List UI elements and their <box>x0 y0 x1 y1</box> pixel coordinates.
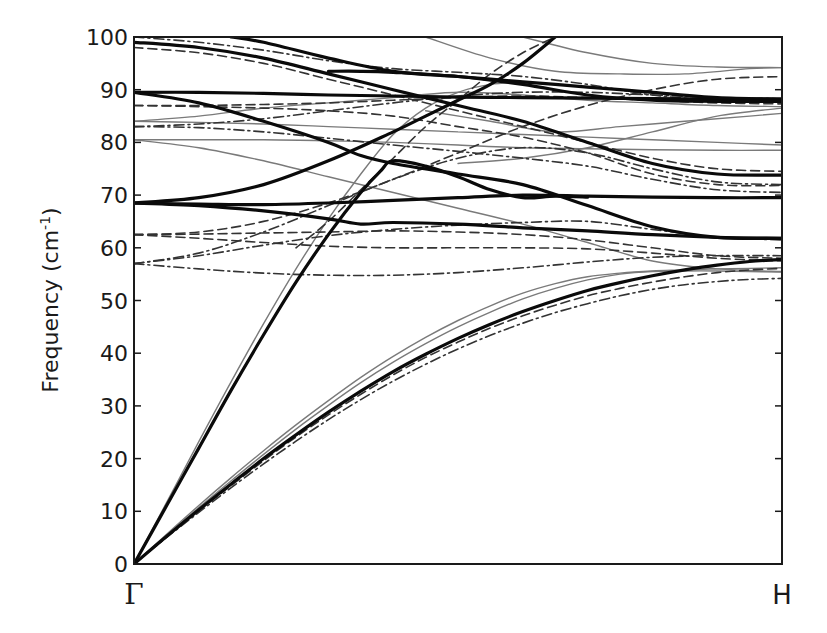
band-optic-99-thick <box>134 42 782 175</box>
phonon-dispersion-chart: 0102030405060708090100 Γ H Frequency (cm… <box>0 0 827 633</box>
y-axis-label: Frequency (cm-1) <box>37 207 63 392</box>
y-tick-label: 10 <box>100 499 128 524</box>
band-acoustic-dashed <box>134 268 782 564</box>
band-acoustic-TA-thin <box>134 268 782 564</box>
band-steep-acoustic-thin <box>134 82 523 564</box>
band-optic-100-thick <box>231 37 782 99</box>
band-optic-thin-top-b <box>523 37 782 68</box>
x-tick-gamma: Γ <box>124 578 143 611</box>
band-acoustic-LA-thick <box>134 259 782 564</box>
band-optic-68-thick-flat <box>134 195 782 205</box>
y-tick-label: 100 <box>86 25 128 50</box>
y-axis-ticks: 0102030405060708090100 <box>86 25 782 577</box>
band-dashdot-83 <box>134 127 782 193</box>
y-tick-label: 30 <box>100 394 128 419</box>
y-tick-label: 70 <box>100 183 128 208</box>
band-optic-thin-84a <box>134 121 782 145</box>
y-tick-label: 60 <box>100 236 128 261</box>
y-tick-label: 0 <box>114 552 128 577</box>
x-tick-h: H <box>772 580 792 610</box>
y-tick-label: 40 <box>100 341 128 366</box>
band-acoustic-TA2-thin <box>134 271 782 564</box>
band-optic-89-thick-down <box>134 92 782 238</box>
dispersion-curves <box>134 37 782 564</box>
y-tick-label: 50 <box>100 289 128 314</box>
y-tick-label: 90 <box>100 78 128 103</box>
y-tick-label: 20 <box>100 447 128 472</box>
y-tick-label: 80 <box>100 130 128 155</box>
band-dashed-62c <box>134 235 782 261</box>
